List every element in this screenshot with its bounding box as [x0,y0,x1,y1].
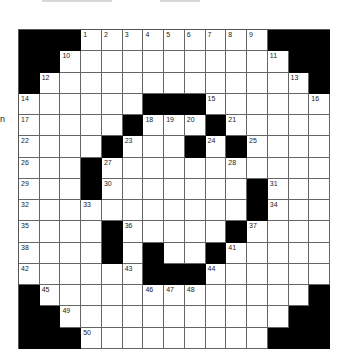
grid-cell[interactable]: 49 [60,306,81,327]
grid-cell[interactable]: 8 [226,30,247,51]
grid-cell[interactable] [206,221,227,242]
grid-cell[interactable]: 34 [268,200,289,221]
grid-cell[interactable] [143,73,164,94]
grid-cell[interactable]: 32 [19,200,40,221]
grid-cell[interactable]: 37 [247,221,268,242]
grid-cell[interactable] [247,94,268,115]
grid-cell[interactable] [40,243,61,264]
grid-cell[interactable] [143,51,164,72]
grid-cell[interactable] [40,221,61,242]
grid-cell[interactable] [206,73,227,94]
grid-cell[interactable] [289,200,310,221]
grid-cell[interactable] [268,73,289,94]
grid-cell[interactable] [40,264,61,285]
grid-cell[interactable] [226,51,247,72]
grid-cell[interactable] [123,328,144,349]
grid-cell[interactable] [81,285,102,306]
grid-cell[interactable]: 5 [164,30,185,51]
grid-cell[interactable] [143,158,164,179]
grid-cell[interactable] [247,51,268,72]
grid-cell[interactable]: 36 [123,221,144,242]
grid-cell[interactable] [268,306,289,327]
grid-cell[interactable] [164,200,185,221]
grid-cell[interactable]: 6 [185,30,206,51]
grid-cell[interactable]: 27 [102,158,123,179]
grid-cell[interactable] [309,179,330,200]
grid-cell[interactable] [206,328,227,349]
grid-cell[interactable] [226,328,247,349]
grid-cell[interactable]: 48 [185,285,206,306]
grid-cell[interactable]: 38 [19,243,40,264]
grid-cell[interactable] [164,243,185,264]
grid-cell[interactable] [247,264,268,285]
grid-cell[interactable] [289,285,310,306]
grid-cell[interactable] [309,115,330,136]
grid-cell[interactable] [143,221,164,242]
grid-cell[interactable] [289,243,310,264]
grid-cell[interactable]: 20 [185,115,206,136]
grid-cell[interactable] [226,285,247,306]
grid-cell[interactable] [60,115,81,136]
grid-cell[interactable] [206,306,227,327]
grid-cell[interactable] [81,243,102,264]
grid-cell[interactable]: 45 [40,285,61,306]
grid-cell[interactable] [60,221,81,242]
grid-cell[interactable] [40,200,61,221]
grid-cell[interactable] [289,136,310,157]
grid-cell[interactable] [289,158,310,179]
grid-cell[interactable] [185,243,206,264]
grid-cell[interactable]: 3 [123,30,144,51]
grid-cell[interactable] [309,264,330,285]
grid-cell[interactable] [164,179,185,200]
grid-cell[interactable] [164,328,185,349]
grid-cell[interactable] [40,115,61,136]
grid-cell[interactable]: 13 [289,73,310,94]
grid-cell[interactable]: 19 [164,115,185,136]
grid-cell[interactable] [123,243,144,264]
grid-cell[interactable] [247,115,268,136]
grid-cell[interactable] [123,51,144,72]
grid-cell[interactable] [309,158,330,179]
grid-cell[interactable]: 10 [60,51,81,72]
grid-cell[interactable] [185,200,206,221]
grid-cell[interactable] [143,306,164,327]
grid-cell[interactable] [102,115,123,136]
grid-cell[interactable] [102,73,123,94]
grid-cell[interactable]: 21 [226,115,247,136]
grid-cell[interactable] [206,200,227,221]
grid-cell[interactable]: 2 [102,30,123,51]
grid-cell[interactable] [123,306,144,327]
grid-cell[interactable] [143,136,164,157]
grid-cell[interactable] [123,94,144,115]
grid-cell[interactable] [185,221,206,242]
grid-cell[interactable] [60,94,81,115]
grid-cell[interactable] [123,285,144,306]
grid-cell[interactable] [185,51,206,72]
grid-cell[interactable] [60,243,81,264]
grid-cell[interactable] [40,158,61,179]
grid-cell[interactable]: 16 [309,94,330,115]
grid-cell[interactable] [268,221,289,242]
grid-cell[interactable] [164,136,185,157]
grid-cell[interactable] [268,243,289,264]
grid-cell[interactable] [206,51,227,72]
grid-cell[interactable]: 25 [247,136,268,157]
grid-cell[interactable]: 30 [102,179,123,200]
grid-cell[interactable] [268,264,289,285]
grid-cell[interactable]: 9 [247,30,268,51]
grid-cell[interactable] [102,285,123,306]
grid-cell[interactable] [226,179,247,200]
grid-cell[interactable] [60,285,81,306]
grid-cell[interactable]: 24 [206,136,227,157]
grid-cell[interactable] [123,179,144,200]
grid-cell[interactable] [81,73,102,94]
grid-cell[interactable] [309,243,330,264]
grid-cell[interactable]: 1 [81,30,102,51]
grid-cell[interactable] [268,115,289,136]
grid-cell[interactable] [81,115,102,136]
grid-cell[interactable] [268,136,289,157]
grid-cell[interactable] [81,264,102,285]
grid-cell[interactable] [60,264,81,285]
grid-cell[interactable]: 29 [19,179,40,200]
grid-cell[interactable] [206,158,227,179]
